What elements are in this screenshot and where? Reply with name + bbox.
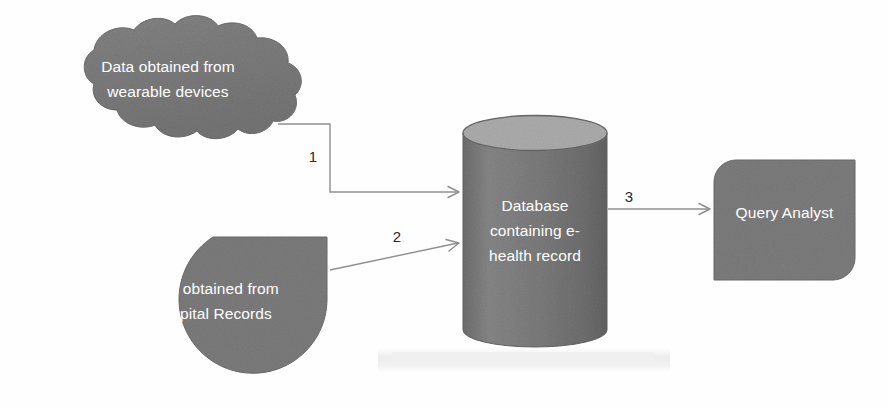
edge-2-line [330, 243, 458, 270]
node-wearable-cloud[interactable]: Data obtained from wearable devices [84, 16, 301, 139]
node-hospital-records[interactable]: Data obtained from Hospital Records [145, 237, 327, 373]
node-query-analyst[interactable]: Query Analyst [714, 160, 855, 280]
database-label-line1: Database [501, 197, 568, 214]
cloud-shape [84, 16, 301, 139]
database-label-line3: health record [489, 247, 581, 264]
hospital-records-label-line2: Hospital Records [152, 305, 272, 322]
edge-1-connector[interactable]: 1 [278, 124, 459, 198]
edge-1-line [278, 124, 458, 192]
wearable-cloud-label-line1: Data obtained from [101, 58, 235, 75]
node-database-cylinder[interactable]: Database containing e- health record [463, 116, 607, 347]
edge-3-connector[interactable]: 3 [608, 188, 710, 215]
query-analyst-label: Query Analyst [736, 204, 834, 221]
hospital-records-label-line1: Data obtained from [145, 280, 279, 297]
wearable-cloud-label-line2: wearable devices [106, 83, 229, 100]
cylinder-top-ellipse [463, 116, 607, 151]
diagram-svg: Data obtained from wearable devices Data… [0, 0, 888, 408]
database-label-line2: containing e- [490, 222, 580, 239]
edge-1-number: 1 [309, 148, 317, 165]
diagram-canvas: Data obtained from wearable devices Data… [0, 0, 888, 408]
scan-artifact-band [378, 344, 670, 376]
edge-2-number: 2 [393, 228, 401, 245]
edge-2-connector[interactable]: 2 [330, 228, 459, 270]
edge-3-number: 3 [625, 188, 633, 205]
cylinder-body [463, 133, 607, 347]
